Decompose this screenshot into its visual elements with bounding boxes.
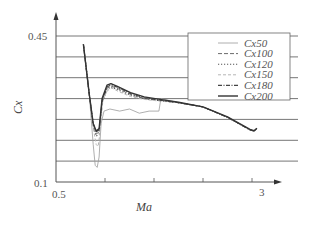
chart-canvas: 0.45 0.1 0.5 3 Ma Cx Cx50Cx100Cx120Cx150… [0,0,331,225]
y-max-label: 0.45 [28,30,48,42]
legend-label: Cx200 [244,90,273,102]
y-axis-arrow-icon [54,12,59,20]
x-ticks [105,178,252,182]
legend: Cx50Cx100Cx120Cx150Cx180Cx200 [188,33,290,102]
x-max-label: 3 [259,186,265,198]
x-min-label: 0.5 [52,188,66,200]
y-min-label: 0.1 [34,177,48,189]
x-axis-arrow-icon [274,180,282,185]
legend-box [188,33,290,100]
y-axis-title: Cx [11,100,25,114]
x-axis-title: Ma [135,200,152,214]
